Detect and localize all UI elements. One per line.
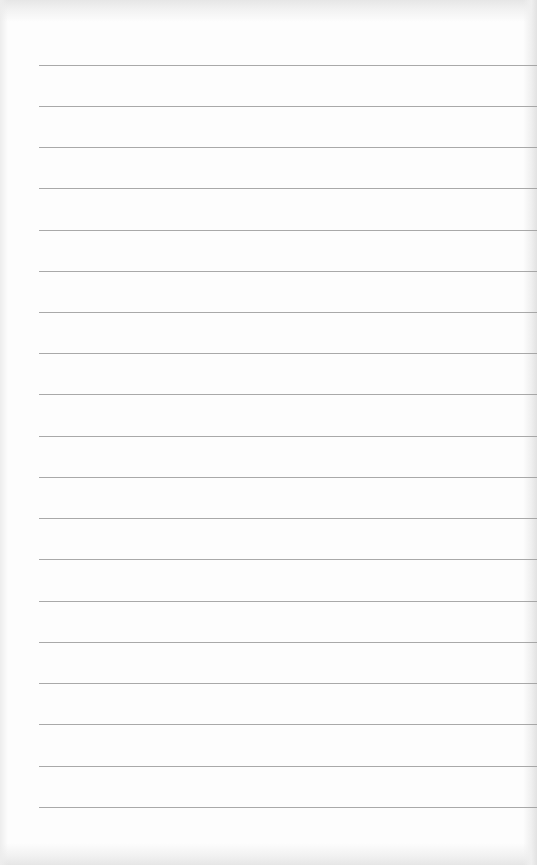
paper-top-edge-shadow xyxy=(0,0,537,22)
paper-bottom-edge-shadow xyxy=(0,843,537,865)
ruled-line xyxy=(39,477,537,478)
paper-right-edge-shadow xyxy=(523,0,537,865)
ruled-line xyxy=(39,683,537,684)
ruled-line xyxy=(39,394,537,395)
ruled-line xyxy=(39,188,537,189)
ruled-line xyxy=(39,353,537,354)
ruled-line xyxy=(39,230,537,231)
ruled-line xyxy=(39,642,537,643)
ruled-line xyxy=(39,65,537,66)
ruled-line xyxy=(39,312,537,313)
paper-left-edge-shadow xyxy=(0,0,8,865)
lined-paper-sheet xyxy=(0,0,537,865)
ruled-line xyxy=(39,518,537,519)
ruled-line xyxy=(39,106,537,107)
ruled-line xyxy=(39,147,537,148)
ruled-line xyxy=(39,724,537,725)
ruled-line xyxy=(39,766,537,767)
ruled-line xyxy=(39,601,537,602)
ruled-line xyxy=(39,559,537,560)
ruled-line xyxy=(39,807,537,808)
ruled-line xyxy=(39,436,537,437)
ruled-line xyxy=(39,271,537,272)
